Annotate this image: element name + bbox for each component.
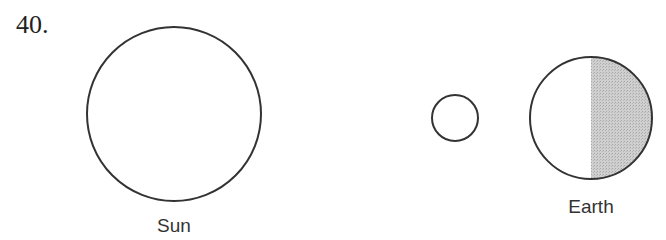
moon — [432, 95, 478, 141]
sun-moon-earth-diagram: Sun Earth — [0, 0, 666, 240]
sun — [87, 27, 261, 201]
earth-label: Earth — [568, 196, 613, 217]
sun-label: Sun — [157, 215, 191, 236]
earth-night-side — [591, 55, 655, 181]
earth — [530, 55, 655, 181]
